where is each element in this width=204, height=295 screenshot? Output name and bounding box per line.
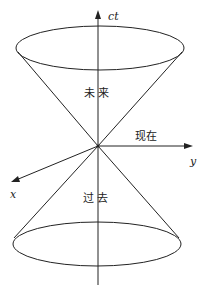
past-cone-rim <box>13 222 181 266</box>
ct-arrowhead-icon <box>95 10 101 19</box>
past-cone-right-edge <box>98 146 179 238</box>
light-cone-diagram <box>0 0 204 295</box>
y-axis-label: y <box>190 156 196 167</box>
origin-point <box>97 145 100 148</box>
y-arrowhead-icon <box>184 143 193 149</box>
past-label: 过 去 <box>83 193 109 204</box>
present-label: 现在 <box>135 131 157 142</box>
x-axis-label: x <box>10 189 16 200</box>
future-label: 未 来 <box>84 88 110 99</box>
x-axis <box>16 146 98 180</box>
future-cone-rim <box>16 26 184 70</box>
ct-axis-label: ct <box>108 11 119 22</box>
x-arrowhead-icon <box>11 176 20 182</box>
